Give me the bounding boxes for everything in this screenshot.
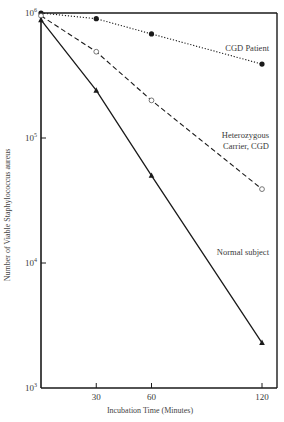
data-series [38, 10, 265, 345]
y-axis-ticks: 106105104103 [25, 7, 46, 393]
data-point-open-circle [94, 49, 99, 54]
y-tick-label: 104 [25, 257, 37, 268]
y-tick-label: 105 [25, 132, 37, 143]
series-line [41, 20, 262, 343]
data-point-open-circle [260, 187, 265, 192]
series-label: CGD Patient [225, 43, 269, 53]
data-point-filled-circle [149, 31, 154, 36]
x-axis-ticks: 3060120 [92, 383, 270, 402]
series-label: Carrier, CGD [223, 141, 269, 151]
data-point-filled-circle [259, 62, 264, 67]
x-tick-label: 120 [255, 392, 269, 402]
series-heterozygous-carrier-cgd [39, 13, 265, 191]
data-point-open-circle [149, 98, 154, 103]
series-labels: CGD PatientHeterozygousCarrier, CGDNorma… [217, 43, 270, 257]
data-point-filled-circle [94, 16, 99, 21]
chart-canvas: 106105104103 3060120 CGD PatientHeterozy… [0, 0, 284, 422]
y-axis-title: Number of Viable Staphylococcus aureus [3, 149, 12, 282]
series-cgd-patient [38, 10, 264, 66]
y-tick-label: 103 [25, 382, 37, 393]
series-label: Heterozygous [222, 130, 269, 140]
x-axis-title: Incubation Time (Minutes) [107, 406, 194, 415]
y-tick-label: 106 [25, 7, 37, 18]
series-label: Normal subject [217, 247, 270, 257]
x-tick-label: 60 [147, 392, 157, 402]
series-normal-subject [38, 17, 265, 345]
series-line [41, 13, 262, 64]
plot-frame [41, 13, 277, 388]
x-tick-label: 30 [92, 392, 102, 402]
